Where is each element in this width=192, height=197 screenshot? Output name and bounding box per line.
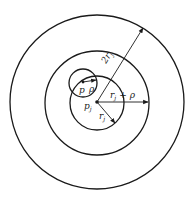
label-pj: pj [84,101,92,113]
radius-rho-arrow [83,80,96,82]
label-rj-plus-rho: rj+ρ [110,90,136,102]
point-p [82,81,85,84]
label-p: p [79,85,85,95]
label-rho: ρ [88,84,95,94]
point-pj [95,100,99,104]
concentric-circles-diagram: 2rj rj+ρ rj pj p ρ [0,0,192,197]
label-rj: rj [99,111,105,123]
